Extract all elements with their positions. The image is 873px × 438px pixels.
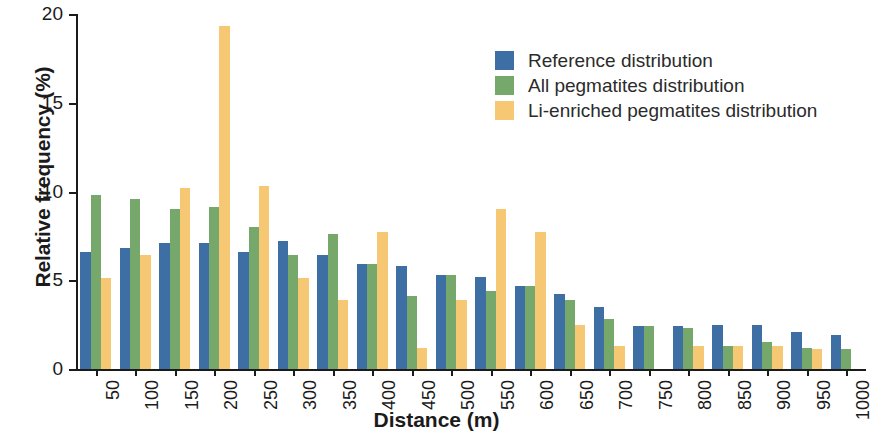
y-axis-tick-label: 5 <box>52 269 63 291</box>
bar-group <box>159 14 190 369</box>
y-axis-tick: 20 <box>69 14 76 16</box>
x-axis-tick <box>728 369 730 376</box>
x-axis-tick <box>570 369 572 376</box>
bar-group <box>317 14 348 369</box>
y-axis-tick: 0 <box>69 369 76 371</box>
bar <box>436 275 446 369</box>
bar <box>80 252 90 369</box>
x-axis-tick-label: 950 <box>814 380 835 410</box>
x-axis-tick <box>254 369 256 376</box>
legend-swatch-icon <box>495 51 514 70</box>
x-axis-tick-label: 450 <box>419 380 440 410</box>
bar <box>535 232 545 369</box>
bar <box>209 207 219 369</box>
bar <box>249 227 259 369</box>
bar <box>259 186 269 369</box>
x-axis-tick-label: 850 <box>735 380 756 410</box>
bar-group <box>238 14 269 369</box>
bar <box>101 278 111 369</box>
x-axis-tick <box>807 369 809 376</box>
x-axis-tick <box>96 369 98 376</box>
y-axis-title: Relative frequency (%) <box>31 12 55 342</box>
bar <box>298 278 308 369</box>
y-axis-tick: 5 <box>69 280 76 282</box>
bar <box>831 335 841 369</box>
bar <box>554 294 564 369</box>
x-axis-tick <box>214 369 216 376</box>
x-axis-tick-label: 400 <box>379 380 400 410</box>
bar <box>396 266 406 369</box>
bar <box>180 188 190 369</box>
bar <box>712 325 722 369</box>
y-axis-tick: 15 <box>69 103 76 105</box>
bar <box>614 346 624 369</box>
bar <box>288 255 298 369</box>
x-axis-tick <box>135 369 137 376</box>
x-axis-tick <box>293 369 295 376</box>
legend-item[interactable]: All pegmatites distribution <box>495 73 817 98</box>
bar <box>644 326 654 369</box>
legend-item-label: Reference distribution <box>528 50 713 72</box>
x-axis-tick-label: 300 <box>300 380 321 410</box>
bar <box>525 286 535 369</box>
x-axis-tick <box>491 369 493 376</box>
bar <box>496 209 506 369</box>
legend-item-label: All pegmatites distribution <box>528 75 745 97</box>
y-axis-tick-label: 10 <box>42 181 63 203</box>
bar <box>140 255 150 369</box>
x-axis-tick <box>688 369 690 376</box>
x-axis-tick-label: 700 <box>616 380 637 410</box>
x-axis-tick <box>767 369 769 376</box>
bar-group <box>199 14 230 369</box>
y-axis-tick: 10 <box>69 192 76 194</box>
bar <box>456 300 466 369</box>
legend-item[interactable]: Reference distribution <box>495 48 817 73</box>
bar <box>791 332 801 369</box>
x-axis-tick-label: 50 <box>103 380 124 400</box>
x-axis-tick <box>412 369 414 376</box>
x-axis-tick <box>649 369 651 376</box>
bar <box>752 325 762 369</box>
bar-chart-figure: Relative frequency (%) 05101520 50100150… <box>0 0 873 438</box>
bar <box>475 277 485 369</box>
bar <box>515 286 525 369</box>
bar <box>199 243 209 369</box>
y-axis-tick-label: 15 <box>42 92 63 114</box>
x-axis-tick-label: 650 <box>577 380 598 410</box>
bar <box>723 346 733 369</box>
legend-swatch-icon <box>495 101 514 120</box>
y-axis-tick-label: 20 <box>42 3 63 25</box>
bar <box>604 319 614 369</box>
x-axis-tick <box>846 369 848 376</box>
bar <box>417 348 427 369</box>
bar <box>278 241 288 369</box>
bar-group <box>436 14 467 369</box>
x-axis-tick <box>530 369 532 376</box>
bar-group <box>120 14 151 369</box>
bar <box>377 232 387 369</box>
bar <box>120 248 130 369</box>
bar <box>762 342 772 369</box>
x-axis-title: Distance (m) <box>0 408 873 432</box>
legend-item[interactable]: Li-enriched pegmatites distribution <box>495 98 817 123</box>
x-axis-tick-label: 500 <box>458 380 479 410</box>
legend-swatch-icon <box>495 76 514 95</box>
bar <box>170 209 180 369</box>
bar <box>219 26 229 369</box>
bar <box>673 326 683 369</box>
bar <box>338 300 348 369</box>
bar <box>812 349 822 369</box>
bar-group <box>278 14 309 369</box>
x-axis-tick-label: 600 <box>537 380 558 410</box>
legend-item-label: Li-enriched pegmatites distribution <box>528 100 817 122</box>
x-axis-tick <box>451 369 453 376</box>
bar <box>407 296 417 369</box>
bar <box>575 325 585 369</box>
bar <box>130 199 140 369</box>
bar <box>633 326 643 369</box>
bar <box>683 328 693 369</box>
bar <box>594 307 604 369</box>
bar <box>772 346 782 369</box>
bar-group <box>396 14 427 369</box>
x-axis-tick-label: 100 <box>142 380 163 410</box>
